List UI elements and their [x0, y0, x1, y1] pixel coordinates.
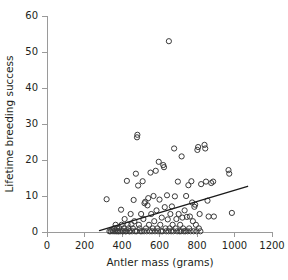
data-point	[152, 219, 157, 224]
data-points	[104, 39, 234, 234]
y-tick-label: 10	[25, 190, 38, 201]
trend-line	[100, 186, 248, 230]
data-point	[165, 217, 170, 222]
data-point	[146, 196, 151, 201]
y-tick-label: 60	[25, 10, 38, 21]
data-point	[151, 193, 156, 198]
data-point	[226, 167, 231, 172]
x-axis-title: Antler mass (grams)	[106, 256, 213, 268]
x-axis-ticks: 020040060080010001200	[44, 232, 285, 251]
x-tick-label: 400	[112, 240, 131, 251]
y-tick-label: 50	[25, 46, 38, 57]
data-point	[199, 182, 204, 187]
data-point	[131, 197, 136, 202]
data-point	[148, 170, 153, 175]
data-point	[159, 215, 164, 220]
data-point	[179, 154, 184, 159]
data-point	[136, 183, 141, 188]
x-tick-label: 800	[187, 240, 206, 251]
data-point	[168, 211, 173, 216]
data-point	[182, 208, 187, 213]
data-point	[172, 194, 177, 199]
data-point	[189, 179, 194, 184]
data-point	[139, 211, 144, 216]
data-point	[206, 214, 211, 219]
data-point	[211, 214, 216, 219]
data-point	[157, 197, 162, 202]
data-point	[153, 168, 158, 173]
x-tick-label: 600	[150, 240, 169, 251]
data-point	[172, 146, 177, 151]
data-point	[184, 193, 189, 198]
data-point	[140, 179, 145, 184]
data-point	[229, 210, 234, 215]
data-point	[162, 205, 167, 210]
data-point	[197, 211, 202, 216]
x-tick-label: 200	[75, 240, 94, 251]
data-point	[122, 216, 127, 221]
x-tick-label: 1000	[222, 240, 247, 251]
axes	[47, 16, 272, 232]
data-point	[118, 207, 123, 212]
data-point	[166, 39, 171, 44]
data-point	[124, 178, 129, 183]
regression-line	[100, 186, 248, 230]
data-point	[227, 171, 232, 176]
y-tick-label: 30	[25, 118, 38, 129]
data-point	[158, 222, 163, 227]
scatter-chart: 0102030405060 020040060080010001200 Antl…	[0, 0, 288, 280]
data-point	[154, 208, 159, 213]
y-tick-label: 20	[25, 154, 38, 165]
y-axis-title: Lifetime breeding success	[3, 56, 15, 193]
data-point	[203, 146, 208, 151]
y-tick-label: 40	[25, 82, 38, 93]
data-point	[164, 193, 169, 198]
data-point	[136, 222, 141, 227]
data-point	[203, 179, 208, 184]
data-point	[175, 179, 180, 184]
data-point	[174, 216, 179, 221]
data-point	[202, 142, 207, 147]
y-tick-label: 0	[32, 226, 38, 237]
chart-page: 0102030405060 020040060080010001200 Antl…	[0, 0, 288, 280]
y-axis-ticks: 0102030405060	[25, 10, 47, 237]
x-tick-label: 0	[44, 240, 50, 251]
x-tick-label: 1200	[259, 240, 284, 251]
data-point	[104, 197, 109, 202]
data-point	[128, 211, 133, 216]
data-point	[133, 171, 138, 176]
